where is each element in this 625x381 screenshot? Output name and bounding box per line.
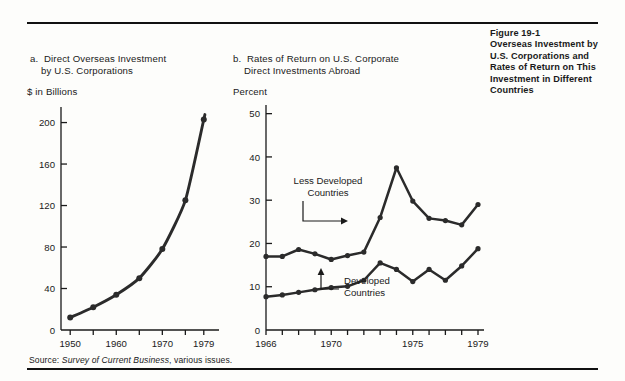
data-point-marker (361, 250, 366, 255)
x-tick-label: 1950 (60, 338, 81, 349)
source-publication: Survey of Current Business (62, 355, 169, 365)
data-point-marker (410, 198, 415, 203)
y-tick-label: 40 (44, 283, 55, 294)
source-note: Source: Survey of Current Business, vari… (29, 355, 232, 365)
data-point-marker (296, 247, 301, 252)
chart-panel-a: 040801201602001950196019701979 (28, 100, 228, 350)
data-point-marker (159, 246, 165, 252)
annotation-dev-line1: Developed (344, 275, 390, 286)
y-tick-label: 0 (50, 325, 55, 336)
y-tick-label: 10 (249, 281, 260, 292)
y-tick-label: 80 (44, 242, 55, 253)
data-point-marker (410, 279, 415, 284)
y-tick-label: 50 (249, 108, 260, 119)
caption-line-3: U.S. Corporations and (490, 51, 620, 62)
bottom-divider-rule (27, 368, 598, 370)
data-point-marker (475, 202, 480, 207)
panel-b-title-line1: Rates of Return on U.S. Corporate (247, 53, 399, 64)
source-prefix: Source: (29, 355, 59, 365)
x-tick-label: 1970 (152, 338, 173, 349)
data-point-marker (426, 267, 431, 272)
annotation-less-developed-countries: Less DevelopedCountries (294, 175, 363, 225)
caption-line-1: Figure 19-1 (490, 28, 620, 39)
figure-container: Figure 19-1 Overseas Investment by U.S. … (0, 0, 625, 381)
chart-panel-a-svg: 040801201602001950196019701979 (28, 100, 228, 350)
data-point-marker (394, 165, 399, 170)
data-point-marker (345, 253, 350, 258)
y-tick-label: 0 (255, 325, 260, 336)
data-point-marker (201, 116, 207, 122)
panel-a-y-axis-unit: $ in Billions (27, 86, 77, 97)
y-tick-label: 200 (39, 117, 55, 128)
y-tick-label: 120 (39, 200, 55, 211)
data-point-marker (312, 251, 317, 256)
data-point-marker (378, 260, 383, 265)
data-point-marker (67, 315, 73, 321)
panel-b-label: b. (233, 53, 241, 64)
data-point-marker (426, 216, 431, 221)
y-tick-label: 30 (249, 195, 260, 206)
panel-a-title-line1: Direct Overseas Investment (44, 53, 166, 64)
annotation-ldc-leader-line (303, 201, 341, 221)
chart-panel-b: 010203040501966197019751979Less Develope… (233, 100, 498, 350)
panel-a-title-line2: by U.S. Corporations (41, 65, 133, 76)
data-point-marker (263, 254, 268, 259)
annotation-ldc-line2: Countries (307, 187, 348, 198)
data-point-marker (182, 197, 188, 203)
chart-panel-b-svg: 010203040501966197019751979Less Develope… (233, 100, 498, 350)
data-point-marker (329, 257, 334, 262)
data-point-marker (443, 218, 448, 223)
caption-line-2: Overseas Investment by (490, 39, 620, 50)
data-point-marker (475, 246, 480, 251)
top-divider-rule (27, 22, 598, 24)
panel-a-title: a. Direct Overseas Investment by U.S. Co… (30, 53, 166, 77)
annotation-dev-arrowhead-icon (318, 268, 325, 275)
data-point-marker (113, 292, 119, 298)
x-tick-label: 1960 (106, 338, 127, 349)
annotation-dev-line2: Countries (344, 287, 385, 298)
data-point-marker (394, 267, 399, 272)
caption-line-6: Countries (490, 85, 620, 96)
x-tick-label: 1966 (255, 338, 276, 349)
x-tick-label: 1970 (321, 338, 342, 349)
y-tick-label: 40 (249, 152, 260, 163)
series-direct-investment (67, 115, 207, 321)
data-point-marker (280, 254, 285, 259)
panel-b-y-axis-unit: Percent (233, 86, 267, 97)
data-point-marker (312, 287, 317, 292)
caption-line-5: Investment in Different (490, 74, 620, 85)
caption-line-4: Rates of Return on This (490, 62, 620, 73)
panel-b-title: b. Rates of Return on U.S. Corporate Dir… (233, 53, 399, 77)
series-line (70, 119, 204, 317)
data-point-marker (90, 304, 96, 310)
data-point-marker (296, 290, 301, 295)
y-tick-label: 20 (249, 238, 260, 249)
data-point-marker (459, 263, 464, 268)
x-tick-label: 1979 (467, 338, 488, 349)
x-tick-label: 1979 (193, 338, 214, 349)
data-point-marker (443, 278, 448, 283)
y-tick-label: 160 (39, 159, 55, 170)
data-point-marker (459, 222, 464, 227)
panel-a-label: a. (30, 53, 38, 64)
x-tick-label: 1975 (402, 338, 423, 349)
panel-b-title-line2: Direct Investments Abroad (244, 65, 360, 76)
figure-caption: Figure 19-1 Overseas Investment by U.S. … (490, 28, 620, 96)
data-point-marker (378, 215, 383, 220)
annotation-developed-countries: DevelopedCountries (318, 268, 390, 298)
annotation-ldc-arrowhead-icon (341, 217, 348, 224)
data-point-marker (136, 275, 142, 281)
source-suffix: , various issues. (169, 355, 232, 365)
annotation-ldc-line1: Less Developed (294, 175, 363, 186)
data-point-marker (280, 292, 285, 297)
data-point-marker (263, 294, 268, 299)
